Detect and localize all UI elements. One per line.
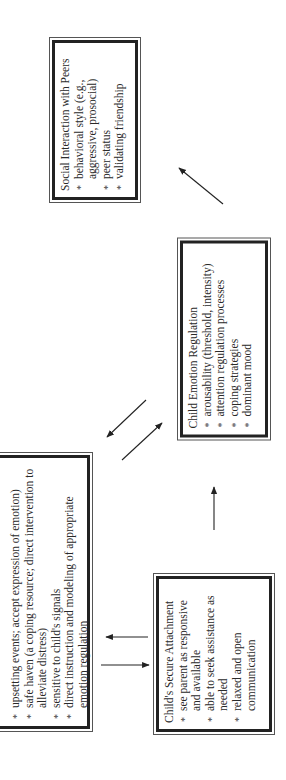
peers-item: peer status [100, 49, 114, 191]
parent-item: upsetting events; accept expression of e… [9, 464, 23, 720]
attachment-item: relaxed and open communication [231, 585, 258, 723]
peers-box-wrap: Social Interaction with Peers behavioral… [49, 37, 141, 203]
emotion-box-wrap: Child Emotion Regulation arousability (t… [177, 237, 271, 440]
parent-item-list: upsetting events; accept expression of e… [9, 464, 91, 720]
emotion-box-inner: Child Emotion Regulation arousability (t… [180, 240, 268, 437]
parent-behaviors-box: upsetting events; accept expression of e… [0, 452, 93, 732]
arrow-emotion-to-parent [107, 400, 146, 437]
arrow-parent-to-emotion [122, 423, 162, 460]
peers-box-inner: Social Interaction with Peers behavioral… [52, 40, 138, 200]
parent-box-inner: upsetting events; accept expression of e… [0, 455, 90, 729]
emotion-item: attention regulation processes [214, 249, 228, 428]
attachment-item: able to seek assistance as needed [204, 585, 231, 723]
attachment-item: see parent as responsive and available [177, 585, 204, 723]
emotion-title: Child Emotion Regulation [187, 249, 201, 428]
emotion-item: coping strategies [228, 249, 242, 428]
peers-item: validating friendship [113, 49, 127, 191]
peers-title: Social Interaction with Peers [59, 49, 73, 191]
attachment-title: Child's Secure Attachment [163, 585, 177, 723]
emotion-item-list: arousability (threshold, intensity) atte… [201, 249, 255, 428]
emotion-regulation-box: Child Emotion Regulation arousability (t… [177, 237, 271, 440]
peers-item-list: behavioral style (e.g., aggressive, pros… [73, 49, 127, 191]
parent-item: safe haven (a coping resource; direct in… [23, 464, 50, 720]
arrow-emotion-to-peers [179, 168, 223, 204]
attachment-box-wrap: Child's Secure Attachment see parent as … [153, 573, 275, 735]
parent-box-wrap: upsetting events; accept expression of e… [0, 452, 93, 732]
secure-attachment-box: Child's Secure Attachment see parent as … [153, 573, 275, 735]
parent-item: direct instruction and modeling of appro… [63, 464, 90, 720]
parent-item: sensitive to child's signals [50, 464, 64, 720]
peers-item: behavioral style (e.g., aggressive, pros… [73, 49, 100, 191]
attachment-box-inner: Child's Secure Attachment see parent as … [156, 576, 272, 732]
emotion-item: arousability (threshold, intensity) [201, 249, 215, 428]
emotion-item: dominant mood [241, 249, 255, 428]
peer-interaction-box: Social Interaction with Peers behavioral… [49, 37, 141, 203]
attachment-item-list: see parent as responsive and available a… [177, 585, 259, 723]
